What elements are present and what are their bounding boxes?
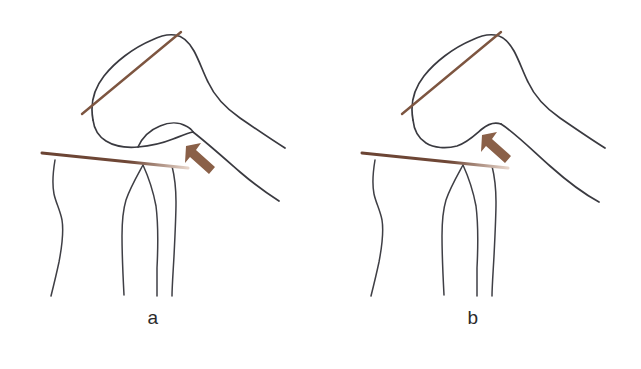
tibia-medial-outline (51, 160, 63, 296)
panel-b: b (320, 0, 640, 369)
panel-b-label: b (320, 305, 640, 331)
figure-canvas: a (0, 0, 641, 369)
tibial-plateau-reference-line (362, 153, 508, 168)
panel-b-label-text: b (467, 305, 478, 331)
tibial-plateau-reference-line (42, 153, 188, 168)
femoral-axis-reference-line (402, 32, 501, 114)
tibia-medial-outline (371, 160, 383, 296)
normal-contour-arrow (481, 132, 511, 163)
femur-anterior-outline (92, 35, 285, 148)
panel-a-drawing (0, 0, 320, 310)
tibia-eminence-outline (463, 165, 478, 296)
panel-b-drawing (320, 0, 640, 310)
femoral-axis-reference-line (82, 32, 181, 114)
panel-a-label-text: a (147, 305, 158, 331)
tibia-lateral-outline (172, 166, 176, 296)
femur-posterior-condyle-outline (93, 120, 193, 147)
panel-a: a (0, 0, 320, 369)
panel-a-label: a (0, 305, 320, 331)
fibula-outline (122, 165, 143, 295)
osteophyte-arrow (185, 143, 215, 174)
fibula-outline (442, 165, 463, 295)
femur-anterior-outline (412, 35, 605, 148)
tibia-lateral-outline (492, 166, 496, 296)
tibia-eminence-outline (143, 165, 158, 296)
femur-distal-shaft-outline (501, 124, 599, 202)
